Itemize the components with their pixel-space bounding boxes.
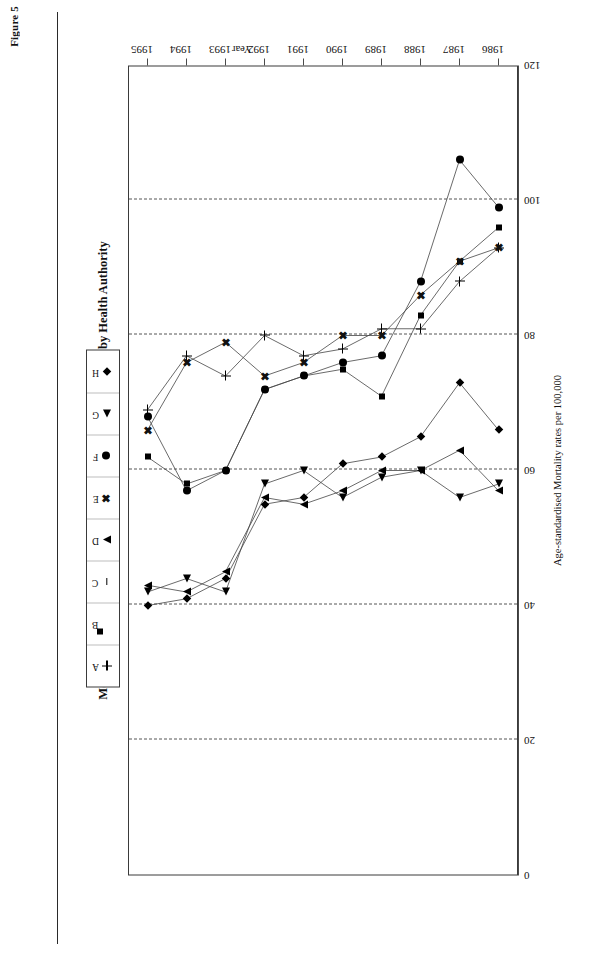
series-line-h: [148, 383, 499, 606]
series-line-g: [148, 471, 499, 593]
figure-page: Figure 5 Mortality Rates from Coronary H…: [0, 0, 610, 956]
x-axis-title: Year: [232, 44, 251, 55]
chart-canvas: Mortality Rates from Coronary Heart Dise…: [82, 26, 582, 931]
series-polylines: [82, 26, 582, 931]
series-line-e: [148, 248, 499, 430]
series-line-d: [148, 450, 499, 592]
series-line-f: [148, 160, 499, 491]
page-vertical-rule: [57, 12, 58, 944]
series-line-a: [148, 248, 499, 410]
figure-label: Figure 5: [8, 6, 20, 47]
y-axis-title: Age-standardised Mortality rates per 100…: [552, 66, 568, 876]
chart-rotation-wrapper: Mortality Rates from Coronary Heart Dise…: [62, 14, 602, 942]
